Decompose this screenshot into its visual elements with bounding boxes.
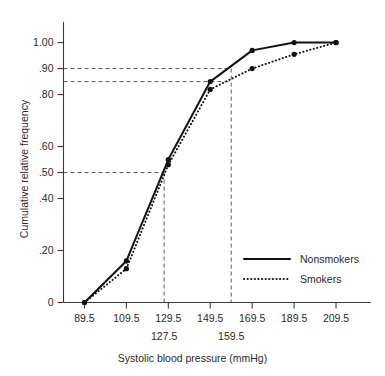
legend-label: Smokers (300, 273, 341, 285)
cumulative-frequency-chart: 0.20.40.50.60.80.901.00 89.5109.5129.514… (0, 0, 385, 376)
y-tick-label-3: .50 (8, 167, 54, 178)
x-tick-label-3: 149.5 (188, 313, 232, 324)
y-tick-label-6: .90 (8, 63, 54, 74)
y-tick-label-2: .40 (8, 193, 54, 204)
data-point-smokers-4 (250, 66, 255, 71)
legend-swatch-dotted-icon (243, 273, 291, 285)
data-point-nonsmokers-5 (292, 40, 297, 45)
legend-label: Nonsmokers (300, 253, 359, 265)
x-tick-label-2: 129.5 (146, 313, 190, 324)
data-point-smokers-2 (166, 162, 171, 167)
data-point-nonsmokers-1 (124, 258, 129, 263)
legend-item-smokers[interactable]: Smokers (243, 269, 378, 289)
x-tick-label-0: 89.5 (62, 313, 106, 324)
x-tick-label-1: 109.5 (104, 313, 148, 324)
y-tick-label-1: .20 (8, 245, 54, 256)
data-point-smokers-5 (292, 52, 297, 57)
annotation-label-127.5: 127.5 (142, 330, 186, 342)
y-tick-label-7: 1.00 (8, 37, 54, 48)
legend-item-nonsmokers[interactable]: Nonsmokers (243, 249, 378, 269)
x-axis-title: Systolic blood pressure (mmHg) (0, 352, 385, 364)
annotation-label-159.5: 159.5 (209, 330, 253, 342)
x-tick-label-6: 209.5 (314, 313, 358, 324)
y-tick-label-0: 0 (8, 297, 54, 308)
chart-legend: NonsmokersSmokers (243, 249, 378, 289)
x-tick-label-4: 169.5 (230, 313, 274, 324)
data-point-smokers-0 (82, 300, 87, 305)
data-point-smokers-3 (208, 87, 213, 92)
x-tick-label-5: 189.5 (272, 313, 316, 324)
y-tick-label-5: .80 (8, 89, 54, 100)
data-point-smokers-6 (333, 40, 338, 45)
data-point-nonsmokers-3 (208, 79, 213, 84)
y-tick-label-4: .60 (8, 141, 54, 152)
data-point-nonsmokers-4 (250, 48, 255, 53)
y-axis-title: Cumulative relative frequency (18, 74, 30, 264)
data-point-smokers-1 (124, 266, 129, 271)
legend-swatch-solid-icon (243, 253, 291, 265)
